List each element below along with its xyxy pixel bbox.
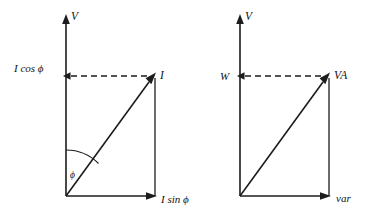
figure-canvas: V I cos ϕ I sin ϕ I ϕ <box>0 0 367 219</box>
right-resultant-label: VA <box>334 69 348 81</box>
right-diagram-power-triangle: V W var VA <box>0 0 367 219</box>
right-vertical-component-label: W <box>220 70 230 82</box>
right-resultant-phasor <box>240 73 330 197</box>
right-vertical-axis <box>236 14 244 196</box>
right-dashed-projection <box>237 72 324 80</box>
right-horizontal-axis <box>240 192 331 200</box>
right-vertical-axis-label: V <box>245 10 254 22</box>
right-horizontal-component-label: var <box>336 192 351 204</box>
